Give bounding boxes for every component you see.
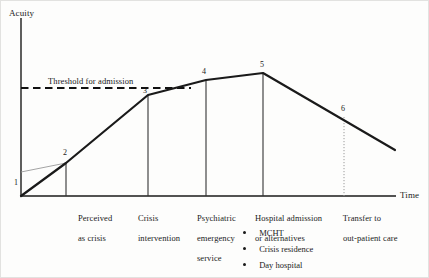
stage-4-line-1: Hospital admission xyxy=(255,213,322,223)
stage-3-line-3: service xyxy=(197,253,222,263)
bullet-dot-icon xyxy=(243,263,246,266)
alternative-item-day-hospital: Day hospital xyxy=(243,260,302,270)
stage-label-psychiatric-emergency-service: Psychiatric emergency service xyxy=(188,203,236,273)
threshold-label: Threshold for admission xyxy=(48,76,133,86)
stage-label-transfer-outpatient: Transfer to out-patient care xyxy=(334,203,398,253)
figure-canvas: Acuity Time Threshold for admission 1 2 … xyxy=(0,0,429,278)
alternative-label-2: Crisis residence xyxy=(259,244,313,254)
stage-3-line-2: emergency xyxy=(197,233,235,243)
stage-2-line-2: intervention xyxy=(138,233,180,243)
alternative-label-1: MCHT xyxy=(259,228,284,238)
x-axis-title: Time xyxy=(400,190,419,201)
node-label-1: 1 xyxy=(14,178,18,187)
node-label-3: 3 xyxy=(143,86,147,95)
alternative-item-mcht: MCHT xyxy=(243,228,284,238)
stage-label-crisis-intervention: Crisis intervention xyxy=(129,203,180,253)
alternative-item-crisis-residence: Crisis residence xyxy=(243,244,313,254)
node-label-5: 5 xyxy=(260,60,264,69)
alternative-label-3: Day hospital xyxy=(259,260,302,270)
stage-1-line-1: Perceived xyxy=(78,213,112,223)
stage-2-line-1: Crisis xyxy=(138,213,158,223)
bullet-dot-icon xyxy=(243,247,246,250)
node-label-6: 6 xyxy=(341,104,345,113)
stage-3-line-1: Psychiatric xyxy=(197,213,236,223)
acuity-trajectory-line xyxy=(21,73,395,196)
node-label-2: 2 xyxy=(63,148,67,157)
stage-1-line-2: as crisis xyxy=(78,233,106,243)
stage-label-perceived-as-crisis: Perceived as crisis xyxy=(69,203,112,253)
y-axis-title: Acuity xyxy=(9,8,34,19)
stage-5-line-2: out-patient care xyxy=(343,233,398,243)
stage-5-line-1: Transfer to xyxy=(343,213,381,223)
node-label-4: 4 xyxy=(202,67,206,76)
bullet-dot-icon xyxy=(243,231,246,234)
